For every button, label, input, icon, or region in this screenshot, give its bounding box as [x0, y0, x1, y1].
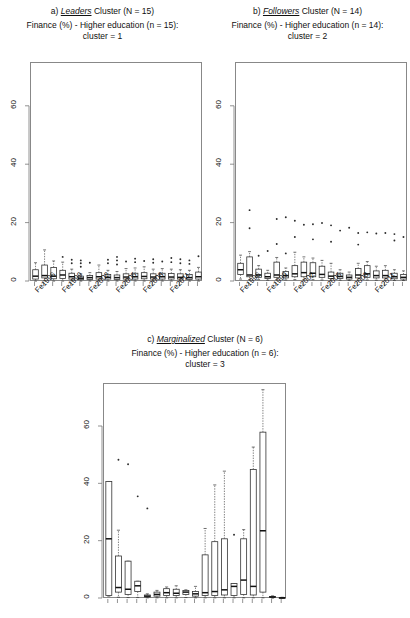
y-tick-label: 60 [9, 95, 18, 113]
panel-a-subtitle-line2: cluster = 1 [0, 31, 205, 42]
y-tick-label: 20 [214, 212, 223, 230]
panel-c-cluster-name: Marginalized [157, 334, 205, 344]
panel-b-n: (N = 14) [331, 6, 362, 16]
panel-c-title: c) Marginalized Cluster (N = 6) [60, 334, 350, 345]
panel-c-tag: c) [147, 334, 154, 344]
panel-a: a) Leaders Cluster (N = 15) Finance (%) … [0, 6, 205, 42]
panel-c-axes [60, 378, 350, 618]
y-tick-label: 60 [82, 416, 91, 434]
y-tick-label: 40 [82, 473, 91, 491]
panel-c-subtitle-line2: cluster = 3 [60, 359, 350, 370]
panel-c-cluster-word: Cluster [207, 334, 234, 344]
panel-a-title: a) Leaders Cluster (N = 15) [0, 6, 205, 17]
y-tick-label: 0 [214, 271, 223, 289]
panel-a-n: (N = 15) [123, 6, 154, 16]
boxplot-figure: a) Leaders Cluster (N = 15) Finance (%) … [0, 0, 410, 618]
y-tick-label: 0 [9, 271, 18, 289]
panel-b-tag: b) [253, 6, 261, 16]
panel-a-cluster-name: Leaders [61, 6, 92, 16]
panel-b: b) Followers Cluster (N = 14) Finance (%… [205, 6, 410, 42]
panel-a-tag: a) [51, 6, 59, 16]
y-tick-label: 0 [82, 588, 91, 606]
panel-a-cluster-word: Cluster [94, 6, 121, 16]
panel-c-subtitle-line1: Finance (%) - Higher education (n = 6): [60, 348, 350, 359]
panel-b-subtitle-line2: cluster = 2 [205, 31, 410, 42]
panel-b-cluster-word: Cluster [302, 6, 329, 16]
y-tick-label: 40 [214, 154, 223, 172]
panel-a-axes [0, 55, 210, 300]
panel-c-n: (N = 6) [237, 334, 263, 344]
y-tick-label: 20 [82, 530, 91, 548]
panel-b-cluster-name: Followers [263, 6, 299, 16]
y-tick-label: 40 [9, 154, 18, 172]
y-tick-label: 20 [9, 212, 18, 230]
panel-b-title: b) Followers Cluster (N = 14) [205, 6, 410, 17]
panel-b-axes [205, 55, 410, 300]
y-tick-label: 60 [214, 95, 223, 113]
panel-b-subtitle-line1: Finance (%) - Higher education (n = 14): [205, 20, 410, 31]
panel-c: c) Marginalized Cluster (N = 6) Finance … [60, 334, 350, 370]
panel-a-subtitle-line1: Finance (%) - Higher education (n = 15): [0, 20, 205, 31]
